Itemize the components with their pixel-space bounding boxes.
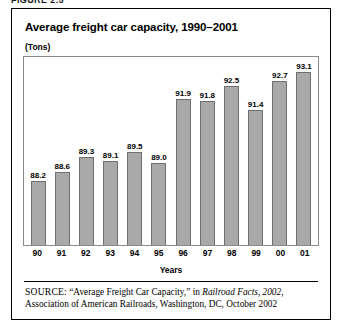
x-axis-tick-label: 95	[147, 248, 171, 258]
figure-caption-cutoff: FIGURE 2.5	[11, 0, 151, 5]
x-axis-tick-label: 98	[220, 248, 244, 258]
x-axis-tick-label: 99	[244, 248, 268, 258]
bar-value-label: 91.8	[199, 91, 215, 100]
x-axis-ticks: 909192939495969798990001	[25, 248, 317, 258]
source-text-before: “Average Freight Car Capacity,” in	[67, 287, 202, 297]
bar-value-label: 91.4	[248, 100, 264, 109]
bar-value-label: 92.5	[224, 76, 240, 85]
x-axis-tick-label: 94	[122, 248, 146, 258]
figure-root: FIGURE 2.5 Average freight car capacity,…	[0, 0, 342, 331]
bar-value-label: 91.9	[175, 89, 191, 98]
x-axis-tick-label: 96	[171, 248, 195, 258]
bar-slot: 89.5	[123, 57, 147, 245]
bar-series: 88.288.689.389.189.589.091.991.892.591.4…	[26, 57, 316, 245]
x-axis-tick-label: 00	[268, 248, 292, 258]
bar	[224, 86, 239, 245]
bar-value-label: 89.0	[151, 153, 167, 162]
bar-slot: 89.1	[99, 57, 123, 245]
bar-slot: 88.2	[26, 57, 50, 245]
bar-slot: 92.7	[268, 57, 292, 245]
source-label: SOURCE:	[25, 286, 67, 297]
bar-value-label: 93.1	[296, 62, 312, 71]
chart-unit-label: (Tons)	[25, 42, 50, 52]
x-axis-tick-label: 92	[74, 248, 98, 258]
source-divider	[24, 281, 318, 282]
bar-slot: 89.3	[74, 57, 98, 245]
bar	[272, 81, 287, 245]
x-axis-tick-label: 90	[25, 248, 49, 258]
plot-area: 88.288.689.389.189.589.091.991.892.591.4…	[24, 57, 318, 245]
source-publication-title: Railroad Facts, 2002,	[202, 287, 283, 297]
source-note: SOURCE: “Average Freight Car Capacity,” …	[25, 286, 318, 310]
bar	[248, 110, 263, 245]
bar	[151, 163, 166, 245]
bar-value-label: 88.6	[54, 162, 70, 171]
bar	[55, 172, 70, 245]
plot-frame: 88.288.689.389.189.589.091.991.892.591.4…	[23, 56, 319, 246]
figure-caption-text: FIGURE 2.5	[11, 0, 151, 5]
bar	[127, 152, 142, 245]
bar	[31, 181, 46, 245]
bar-slot: 92.5	[219, 57, 243, 245]
bar-slot: 93.1	[292, 57, 316, 245]
bar-slot: 88.6	[50, 57, 74, 245]
x-axis: 909192939495969798990001	[23, 248, 319, 262]
x-axis-tick-label: 93	[98, 248, 122, 258]
source-text-after: Association of American Railroads, Washi…	[25, 299, 277, 309]
bar-value-label: 89.1	[103, 151, 119, 160]
x-axis-tick-label: 97	[195, 248, 219, 258]
bar	[296, 72, 311, 245]
bar	[200, 101, 215, 245]
bar-value-label: 88.2	[30, 171, 46, 180]
bar	[176, 99, 191, 245]
bar-value-label: 89.5	[127, 142, 143, 151]
x-axis-tick-label: 91	[49, 248, 73, 258]
bar-slot: 91.9	[171, 57, 195, 245]
bar	[79, 157, 94, 245]
bar-value-label: 92.7	[272, 71, 288, 80]
x-axis-tick-label: 01	[293, 248, 317, 258]
bar-slot: 91.8	[195, 57, 219, 245]
chart-title: Average freight car capacity, 1990–2001	[25, 21, 238, 33]
bar-value-label: 89.3	[79, 147, 95, 156]
x-axis-title: Years	[12, 265, 330, 275]
bar-slot: 89.0	[147, 57, 171, 245]
chart-panel: Average freight car capacity, 1990–2001 …	[11, 8, 331, 320]
bar	[103, 161, 118, 245]
bar-slot: 91.4	[244, 57, 268, 245]
